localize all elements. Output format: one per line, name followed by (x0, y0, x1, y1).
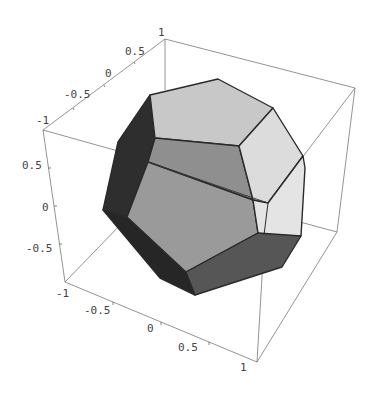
tick-label: 0 (147, 322, 154, 335)
tick-label: -0.5 (84, 304, 111, 317)
dodecahedron-plot: -1 -0.5 0 0.5 1 0.5 0 -0.5 -1 -0.5 0 0.5… (0, 0, 377, 394)
tick-label: 1 (158, 26, 165, 39)
tick-label: 0.5 (178, 341, 198, 354)
tick-label: -1 (36, 114, 49, 127)
tick-label: 0 (105, 67, 112, 80)
tick-label: -0.5 (64, 88, 91, 101)
tick-label: 1 (240, 361, 247, 374)
tick-label: 0.5 (125, 45, 145, 58)
box-edge (300, 222, 337, 232)
box-edge (165, 39, 355, 88)
bottom-axis-labels: -1 -0.5 0 0.5 1 (56, 287, 247, 374)
box-edge (337, 88, 355, 232)
left-axis-labels: 0.5 0 -0.5 (22, 159, 53, 255)
tick-label: -1 (56, 287, 69, 300)
dodecahedron (103, 79, 305, 295)
box-edge (65, 220, 125, 282)
tick-label: -0.5 (26, 242, 53, 255)
tick-label: 0.5 (22, 159, 42, 172)
tick-label: 0 (42, 201, 49, 214)
